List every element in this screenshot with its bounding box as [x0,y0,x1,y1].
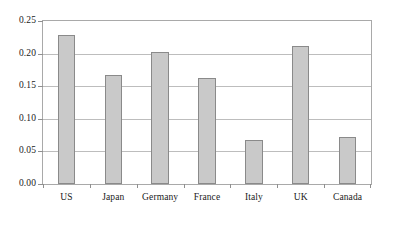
x-axis-tick [137,184,138,188]
x-axis-label-uk: UK [294,193,308,203]
bar-canada [339,137,357,184]
x-axis-tick [277,184,278,188]
x-axis-tick [90,184,91,188]
x-axis-label-japan: Japan [102,193,124,203]
x-axis-label-germany: Germany [142,193,178,203]
x-axis-tick [43,184,44,188]
y-axis-tick-label: 0.15 [19,81,36,91]
bar-germany [151,52,169,184]
x-axis-tick [324,184,325,188]
bar-france [198,78,216,184]
gridline [43,54,371,55]
y-axis-tick [38,119,43,120]
x-axis-tick [184,184,185,188]
x-axis-label-canada: Canada [333,193,362,203]
y-axis-tick-label: 0.25 [19,16,36,26]
plot-area: 0.000.050.100.150.200.25 USJapanGermanyF… [42,20,372,185]
x-axis-label-france: France [194,193,220,203]
y-axis-tick-label: 0.00 [19,179,36,189]
x-axis-label-us: US [60,193,72,203]
y-axis-tick-label: 0.20 [19,49,36,59]
bar-chart: 0.000.050.100.150.200.25 USJapanGermanyF… [0,0,396,235]
y-axis-tick [38,21,43,22]
y-axis-tick [38,86,43,87]
bar-us [58,35,76,184]
bar-uk [292,46,310,184]
bar-japan [105,75,123,184]
y-axis-tick [38,151,43,152]
y-axis-tick-label: 0.10 [19,114,36,124]
y-axis-tick-label: 0.05 [19,147,36,157]
bar-italy [245,140,263,184]
x-axis-tick [230,184,231,188]
x-axis-tick [370,184,371,188]
x-axis-label-italy: Italy [245,193,263,203]
y-axis-tick [38,54,43,55]
